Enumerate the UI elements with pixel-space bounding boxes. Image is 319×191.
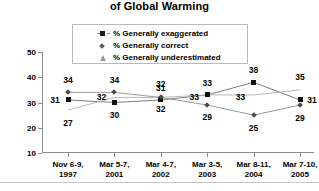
x-axis-label-line2: 1997 [52,170,83,180]
y-axis-tick-label: 30 [27,98,36,107]
legend-label-exaggerated: % Generally exaggerated [113,29,208,38]
x-axis-label-line2: 2005 [283,170,318,180]
y-axis-tick [38,153,42,154]
y-axis-tick [38,77,42,78]
data-point-label: 25 [249,123,258,133]
x-axis-label-line1: Mar 3-5, [192,160,222,170]
diamond-marker-icon [97,41,110,50]
x-axis-label: Mar 8-11,2004 [236,160,270,180]
data-point-label: 38 [249,65,258,75]
data-point-label: 33 [189,92,198,102]
legend-item-correct: % Generally correct [97,40,247,51]
x-axis-tick [161,153,162,157]
x-axis-label-line1: Mar 7-10, [283,160,318,170]
data-point-label: 32 [97,92,106,102]
x-axis-label-line1: Mar 4-7, [146,160,176,170]
data-point-label: 31 [307,95,316,105]
data-point [251,80,256,85]
data-point-label: 30 [110,110,119,120]
square-marker-icon [97,29,110,38]
y-axis-tick [38,128,42,129]
y-axis-tick-label: 20 [27,123,36,132]
x-axis-label-line2: 2004 [236,170,270,180]
x-axis-label: Nov 6-9,1997 [52,160,83,180]
x-axis-label-line1: Mar 8-11, [236,160,270,170]
data-point [112,100,117,105]
x-axis-label: Mar 7-10,2005 [283,160,318,180]
bottom-divider [0,182,319,183]
data-point-label: 29 [202,112,211,122]
y-axis-tick [38,103,42,104]
x-axis-label-line2: 2002 [146,170,176,180]
legend-label-correct: % Generally correct [113,41,188,50]
x-axis-label-line2: 2003 [192,170,222,180]
data-point-label: 33 [236,92,245,102]
x-axis-tick [300,153,301,157]
series-lines [42,52,314,153]
x-axis-label: Mar 4-7,2002 [146,160,176,180]
x-axis-labels: Nov 6-9,1997Mar 5-7,2001Mar 4-7,2002Mar … [42,160,314,188]
data-point-label: 32 [156,79,165,89]
data-point [66,97,71,102]
x-axis-tick [254,153,255,157]
x-axis-label: Mar 3-5,2003 [192,160,222,180]
x-axis-label-line1: Nov 6-9, [52,160,83,170]
x-axis-tick [114,153,115,157]
x-axis-label-line2: 2001 [99,170,129,180]
chart-title: of Global Warming [0,0,319,13]
x-axis-tick [207,153,208,157]
x-axis-label: Mar 5-7,2001 [99,160,129,180]
data-point-label: 29 [295,113,304,123]
y-axis-tick [38,52,42,53]
x-axis-tick [68,153,69,157]
y-axis-tick-label: 40 [27,73,36,82]
x-axis-label-line1: Mar 5-7, [99,160,129,170]
data-point-label: 35 [295,72,304,82]
data-point-label: 27 [63,118,72,128]
data-point-label: 34 [110,75,119,85]
chart-container: of Global Warming % Generally exaggerate… [0,0,319,191]
data-point-label: 31 [50,95,59,105]
data-point-label: 34 [63,75,72,85]
data-point [205,92,210,97]
data-point-label: 33 [202,78,211,88]
legend-item-exaggerated: % Generally exaggerated [97,28,247,39]
plot-area: 1020304050313031333831343432292529273232… [42,52,314,153]
data-point-label: 32 [156,104,165,114]
y-axis-tick-label: 10 [27,149,36,158]
y-axis-tick-label: 50 [27,48,36,57]
